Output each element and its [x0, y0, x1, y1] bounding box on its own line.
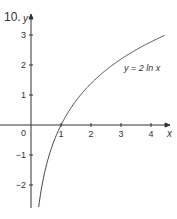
curve-label: y = 2 ln x [123, 63, 161, 73]
chart: 1234−2−11230xy y = 2 ln x [0, 0, 177, 219]
svg-text:2: 2 [88, 129, 93, 139]
svg-text:x: x [166, 128, 173, 139]
svg-text:3: 3 [118, 129, 123, 139]
svg-text:1: 1 [58, 129, 63, 139]
svg-text:1: 1 [21, 90, 26, 100]
svg-text:−1: −1 [16, 150, 26, 160]
svg-text:0: 0 [21, 128, 26, 138]
curve-2lnx [39, 35, 165, 207]
svg-text:2: 2 [21, 60, 26, 70]
svg-text:y: y [22, 13, 29, 24]
svg-text:4: 4 [148, 129, 153, 139]
tick-labels: 1234−2−11230xy [16, 13, 173, 190]
svg-text:3: 3 [21, 30, 26, 40]
svg-text:−2: −2 [16, 180, 26, 190]
axes [0, 14, 170, 208]
